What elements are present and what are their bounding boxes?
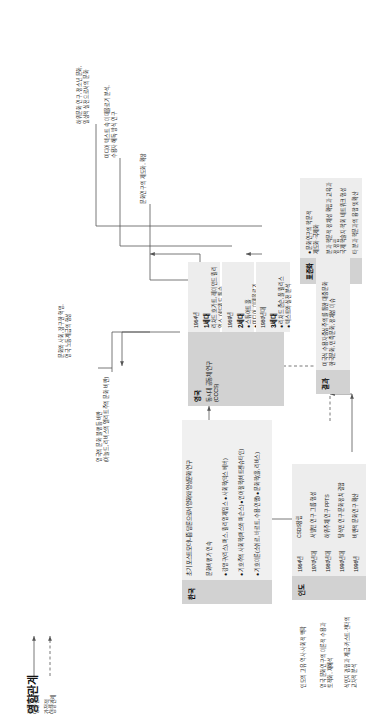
legend-direct-label: 직접적 영향관계 xyxy=(27,695,39,714)
korea-heading: 초기 포스트모더니즘 담론으로서 영화와 영상문화 연구 xyxy=(186,424,193,576)
india-note-1: 인도의 고유 역사·사회적 맥락 xyxy=(300,604,307,688)
india-row-1-text: CSDS창립 xyxy=(296,468,303,538)
uk-box[interactable] xyxy=(188,332,284,406)
korea-item-3: ● 기호이론(소쉬르, 바르트, 수용·연행) ● 문화학(홀, 리비스) xyxy=(254,424,261,576)
result-label: 결과 xyxy=(320,379,330,390)
uk-gen2-gen: 2세대 xyxy=(236,313,245,328)
korea-subheading: 문화비평가 연속 xyxy=(206,424,213,576)
uk-sub: 동시대 공동체 연구 (CCCS) xyxy=(206,334,220,402)
india-row-4-text: 탈식민 연구·문화정치 결합 xyxy=(338,468,345,538)
india-row-5-text: 비판적 문화연구 확산 xyxy=(352,468,359,538)
uk-gen1-year: 1964년 xyxy=(192,312,200,328)
uk-note-5: 하위문화 연구, 청소년 문화, 일상적 실천으로서의 문화 xyxy=(76,14,90,124)
india-row-5-year: 1996년 xyxy=(352,556,360,572)
standardization-label: 표준화 xyxy=(304,263,314,280)
uk-gen3-gen: 3세대 xyxy=(269,313,278,328)
india-row-2-year: 1970년대 xyxy=(310,551,318,572)
standardization-note-2: 국제 학술지·학회 네트워크 형성 xyxy=(340,180,347,254)
india-note-2: 영국 문화연구의 이론적 수용과 토착화, 재해석 xyxy=(320,604,334,688)
result-text: 미국식 수용자중심주의를 통한 대중문화 한국문화, 민족문화, 정체성 이슈 xyxy=(322,256,336,366)
india-note-3: 식민지 경험과 계급·카스트·젠더의 교차적 분석 xyxy=(344,604,358,688)
korea-item-1: ● 강명구(리스), 퍼스, 윌리엄 제임스 ● 사회학(막스 베버) xyxy=(222,424,229,576)
uk-note-2: 문화와 사회, 장구한 혁명, 영국 노동계급의 형성 xyxy=(58,272,72,358)
india-label: 인도 xyxy=(296,585,306,596)
diagram-canvas: 영향관계 직접적 영향관계 간접적 영향관계 영국 동시대 공동체 연구 (CC… xyxy=(0,0,380,724)
india-row-3-text: 하위주체 연구 PPTS xyxy=(324,468,331,538)
india-row-1-year: 1964년 xyxy=(296,556,304,572)
uk-label: 영국 xyxy=(192,391,202,402)
uk-gen1-gen: 1세대 xyxy=(202,313,211,328)
standardization-items: ● 문화연구의 학문적 제도화·국제화 xyxy=(306,180,320,254)
standardization-note-1: 분과 학문적 정체성 확립과 교육과정 정립 xyxy=(326,180,340,254)
standardization-note-3: 타 분과 학문과의 융합 및 확산 xyxy=(352,180,359,254)
india-row-4-year: 1990년대 xyxy=(338,551,346,572)
korea-item-2: ● 기호주의 사회학(퍼스와 파슨스) ● 언어철학(비트겐슈타인) xyxy=(238,424,245,576)
uk-note-3: 문화연구의 제도화, 확장 xyxy=(140,112,147,204)
uk-note-4: 미디어 텍스트 속 이데올로기 분석, 수용자 해독 방식 연구 xyxy=(104,58,118,158)
uk-gen2-year: 1969년 xyxy=(226,312,234,328)
uk-gen3-year: 1980년대 xyxy=(259,307,267,328)
legend-indirect-label: 간접적 영향관계 xyxy=(44,695,56,714)
india-row-2-text: 서발턴 연구 그룹 형성 xyxy=(310,468,317,538)
uk-gen3-items: ● 리처드 존슨, 폴 윌리스 ● 텍스트와 실천 분석 xyxy=(278,264,292,328)
uk-note-1: 영국의 문화 불평등 비판 (아놀드, 리비스의 엘리트주의 문화 비판) xyxy=(96,370,110,462)
rotated-diagram-wrapper: 영향관계 직접적 영향관계 간접적 영향관계 영국 동시대 공동체 연구 (CC… xyxy=(0,0,380,724)
india-row-3-year: 1980년대 xyxy=(324,551,332,572)
korea-label: 한국 xyxy=(186,589,196,600)
